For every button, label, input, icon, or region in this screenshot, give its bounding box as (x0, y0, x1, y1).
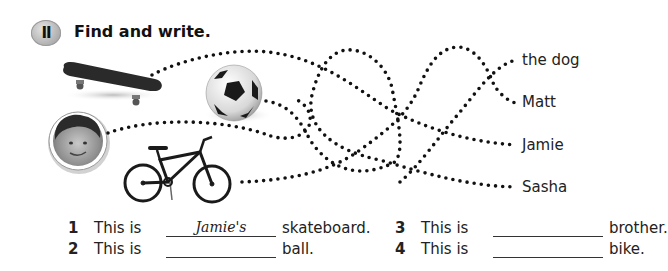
sentence-prefix: This is (421, 240, 468, 258)
sentence-prefix: This is (94, 219, 141, 237)
name-jamie: Jamie (522, 136, 564, 154)
sentence-suffix: bike. (609, 240, 645, 258)
name-sasha: Sasha (522, 178, 567, 196)
answer-blank[interactable] (493, 240, 603, 258)
bike-picture (125, 137, 230, 202)
sentence-suffix: brother. (609, 219, 668, 237)
sentence-prefix: This is (94, 240, 141, 258)
dotted-path-ball (266, 50, 516, 187)
sentence-prefix: This is (421, 219, 468, 237)
answer-blank[interactable] (493, 219, 603, 237)
dotted-path-bike (242, 47, 516, 182)
boy-portrait-picture (48, 112, 110, 174)
answer-blank[interactable] (166, 240, 276, 258)
skateboard-picture (63, 62, 163, 105)
sentence-number: 2 (68, 240, 78, 258)
name-matt: Matt (522, 93, 556, 111)
sentence-number: 4 (395, 240, 405, 258)
sentence-number: 1 (68, 219, 78, 237)
sentence-number: 3 (395, 219, 405, 237)
ball-picture (203, 65, 273, 123)
sentence-suffix: skateboard. (282, 219, 371, 237)
name-the-dog: the dog (522, 51, 580, 69)
answer-blank[interactable]: Jamie's (166, 219, 276, 237)
dotted-path-dog (400, 60, 516, 182)
sentence-suffix: ball. (282, 240, 314, 258)
